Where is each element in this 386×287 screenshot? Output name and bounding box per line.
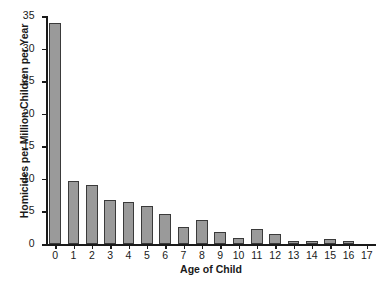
bar (233, 238, 244, 244)
x-axis-tick-label: 11 (248, 249, 266, 262)
y-axis-tick-label: 20 (23, 107, 35, 120)
bar (104, 200, 115, 244)
x-axis-tick-label: 15 (321, 249, 339, 262)
y-axis-tick-label: 35 (23, 9, 35, 22)
bar (251, 229, 262, 244)
y-axis-tick-label: 15 (23, 139, 35, 152)
bar (68, 181, 79, 244)
bar (269, 234, 280, 244)
x-axis-line (46, 244, 376, 246)
x-axis-tick-label: 17 (358, 249, 376, 262)
x-axis-tick-label: 5 (138, 249, 156, 262)
bar (306, 241, 317, 244)
bar (159, 214, 170, 244)
bar-chart-figure: Homicides per Million Children per Year … (0, 0, 386, 287)
bar (141, 206, 152, 244)
x-axis-tick-label: 6 (156, 249, 174, 262)
x-axis-tick-label: 0 (46, 249, 64, 262)
bar (178, 227, 189, 244)
bar (324, 239, 335, 244)
y-axis-tick-label: 30 (23, 42, 35, 55)
y-axis-tick: 0 (42, 244, 47, 246)
x-axis-tick-label: 12 (266, 249, 284, 262)
bar (86, 185, 97, 244)
y-axis-tick-label: 25 (23, 74, 35, 87)
bar (214, 232, 225, 244)
bar-series (46, 16, 376, 244)
bar (123, 202, 134, 244)
x-axis-tick-label: 10 (229, 249, 247, 262)
x-axis-tick-label: 16 (339, 249, 357, 262)
y-axis-tick-label: 0 (29, 237, 35, 250)
plot-area: 05101520253035 0123456789101112131415161… (46, 16, 376, 244)
y-axis-tick-label: 10 (23, 172, 35, 185)
x-axis-tick-label: 13 (284, 249, 302, 262)
bar (196, 220, 207, 244)
x-axis-tick-label: 3 (101, 249, 119, 262)
y-axis-tick-label: 5 (29, 204, 35, 217)
bar (343, 241, 354, 244)
x-axis-tick-label: 7 (174, 249, 192, 262)
x-axis-tick-label: 14 (303, 249, 321, 262)
x-axis-tick-label: 2 (83, 249, 101, 262)
x-axis-tick-label: 1 (64, 249, 82, 262)
x-axis-tick-label: 9 (211, 249, 229, 262)
bar (288, 241, 299, 244)
x-axis-tick-label: 4 (119, 249, 137, 262)
x-axis-title: Age of Child (46, 263, 376, 275)
bar (49, 23, 60, 244)
x-axis-tick-label: 8 (193, 249, 211, 262)
